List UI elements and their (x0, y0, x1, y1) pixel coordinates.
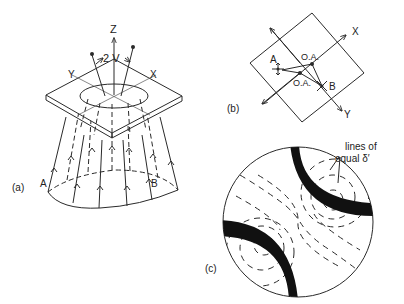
y-axis-label-b: Y (344, 109, 351, 120)
figure-canvas: Z 2 V Y X A B (a) A B O.A. O.A. (0, 0, 404, 304)
point-b-label-b: B (329, 81, 336, 92)
x-axis-label-a: X (150, 69, 157, 80)
optic-axis-label-1: O.A. (301, 52, 319, 62)
panel-a-label: (a) (12, 182, 24, 193)
point-a-label-b: A (270, 54, 277, 65)
panel-b: A B O.A. O.A. X Y (b) (227, 13, 364, 122)
y-axis-label-a: Y (68, 69, 75, 80)
point-b-label-a: B (151, 178, 158, 189)
z-axis-label: Z (110, 23, 117, 35)
optic-axis-label-2: O.A. (293, 78, 311, 88)
panel-a: Z 2 V Y X A B (a) (12, 23, 182, 208)
annotation-line1: lines of (345, 141, 377, 152)
panel-c: lines of equal δ′ (c) (205, 141, 378, 300)
point-a-label-a: A (40, 178, 47, 189)
panel-c-label: (c) (205, 263, 217, 274)
annotation-line2: equal δ′ (335, 153, 370, 164)
x-axis-label-b: X (352, 26, 359, 37)
panel-b-label: (b) (227, 103, 239, 114)
two-v-label: 2 V (103, 52, 120, 64)
